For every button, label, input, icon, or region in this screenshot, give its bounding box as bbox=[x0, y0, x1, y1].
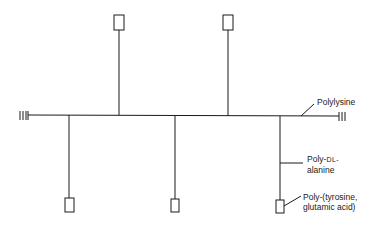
diagram-canvas: Polylysine Poly-DL- alanine Poly-(tyrosi… bbox=[0, 0, 387, 226]
end-group-line2: glutamic acid) bbox=[303, 202, 357, 212]
polylysine-backbone bbox=[28, 115, 339, 116]
branch-up-1 bbox=[114, 15, 124, 115]
polylysine-label: Polylysine bbox=[317, 97, 355, 107]
end-group-line1: Poly-(tyrosine, bbox=[303, 192, 357, 202]
dl-prefix: DL- bbox=[326, 156, 339, 163]
right-continuation-marks bbox=[339, 112, 345, 121]
poly-prefix: Poly- bbox=[307, 154, 326, 164]
branch-down-3 bbox=[276, 116, 284, 213]
branch-down-2 bbox=[171, 116, 179, 212]
polyalanine-line1: Poly-DL- bbox=[307, 154, 339, 165]
polyalanine-line2: alanine bbox=[307, 165, 339, 175]
polyalanine-label: Poly-DL- alanine bbox=[307, 154, 339, 175]
end-group-leader bbox=[284, 196, 301, 206]
left-continuation-marks bbox=[20, 111, 28, 120]
branch-up-2 bbox=[223, 15, 233, 116]
polylysine-text: Polylysine bbox=[317, 97, 355, 107]
end-group-label: Poly-(tyrosine, glutamic acid) bbox=[303, 192, 357, 212]
polylysine-leader bbox=[301, 104, 314, 116]
branch-down-1 bbox=[65, 115, 74, 212]
